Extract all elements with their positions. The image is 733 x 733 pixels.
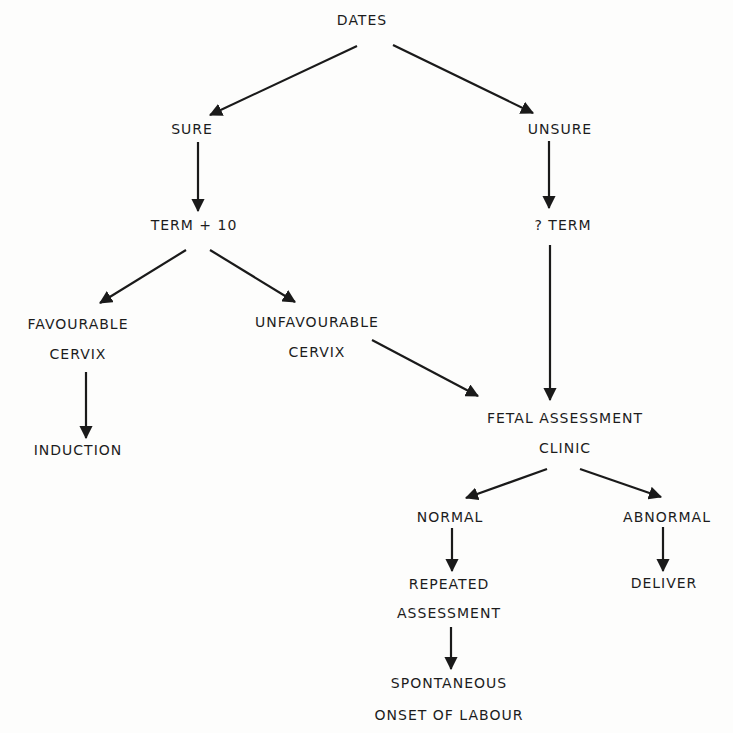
node-induction: INDUCTION — [34, 443, 123, 457]
arrow-icon — [210, 46, 357, 115]
node-unfavourable-cervix: CERVIX — [289, 345, 346, 359]
node-onset-of-labour: ONSET OF LABOUR — [375, 708, 524, 722]
node-normal: NORMAL — [417, 510, 484, 524]
node-repeated-assessment: ASSESSMENT — [397, 606, 501, 620]
arrow-icon — [210, 250, 295, 302]
arrow-icon — [466, 469, 547, 498]
node-term-plus-10: TERM + 10 — [151, 218, 238, 232]
flowchart-arrows — [0, 0, 733, 733]
node-favourable: FAVOURABLE — [27, 317, 128, 331]
arrow-icon — [372, 340, 478, 396]
node-favourable-cervix: CERVIX — [50, 347, 107, 361]
node-unfavourable: UNFAVOURABLE — [255, 315, 379, 329]
node-spontaneous: SPONTANEOUS — [391, 676, 507, 690]
node-sure: SURE — [171, 122, 213, 136]
node-repeated: REPEATED — [409, 577, 490, 591]
node-question-term: ? TERM — [534, 218, 591, 232]
arrow-icon — [580, 469, 661, 497]
flowchart-canvas: DATES SURE UNSURE TERM + 10 ? TERM FAVOU… — [0, 0, 733, 733]
arrow-icon — [100, 250, 186, 303]
node-fetal-assessment: FETAL ASSESSMENT — [487, 411, 643, 425]
arrow-icon — [393, 45, 533, 113]
node-dates: DATES — [337, 13, 387, 27]
node-unsure: UNSURE — [528, 122, 592, 136]
node-fetal-assessment-clinic: CLINIC — [539, 441, 591, 455]
node-deliver: DELIVER — [631, 576, 698, 590]
node-abnormal: ABNORMAL — [623, 510, 711, 524]
